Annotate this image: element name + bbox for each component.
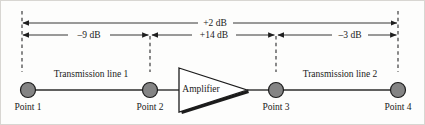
measurement-segment-3: –3 dB: [278, 30, 397, 40]
amplifier-block[interactable]: Amplifier: [179, 68, 249, 113]
diagram-canvas: +2 dB –9 dB +14 dB –3 dB: [0, 0, 425, 125]
measurement-overall: +2 dB: [23, 18, 397, 28]
node-circle-point-3[interactable]: [269, 83, 284, 98]
signal-chain-diagram: +2 dB –9 dB +14 dB –3 dB: [0, 0, 425, 125]
segment-2-label: +14 dB: [200, 30, 228, 40]
node-label-point-1: Point 1: [14, 102, 41, 112]
node-label-point-2: Point 2: [136, 102, 163, 112]
node-point-3[interactable]: Point 3: [262, 83, 289, 113]
measurement-segment-2: +14 dB: [152, 30, 275, 40]
node-point-2[interactable]: Point 2: [136, 83, 163, 113]
node-circle-point-1[interactable]: [21, 83, 36, 98]
node-circle-point-2[interactable]: [143, 83, 158, 98]
node-label-point-3: Point 3: [262, 102, 289, 112]
node-circle-point-4[interactable]: [391, 83, 406, 98]
node-point-4[interactable]: Point 4: [384, 83, 411, 113]
segment-3-label: –3 dB: [338, 30, 362, 40]
measurement-segment-1: –9 dB: [23, 30, 149, 40]
transmission-line-1-label: Transmission line 1: [54, 69, 129, 79]
transmission-line-2-label: Transmission line 2: [303, 69, 378, 79]
node-point-1[interactable]: Point 1: [14, 83, 41, 113]
amplifier-label: Amplifier: [182, 84, 220, 94]
node-label-point-4: Point 4: [384, 102, 411, 112]
overall-gain-label: +2 dB: [203, 18, 227, 28]
segment-1-label: –9 dB: [77, 30, 101, 40]
